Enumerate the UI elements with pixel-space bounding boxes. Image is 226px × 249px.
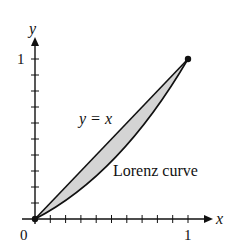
y-axis-label: y: [27, 20, 37, 38]
x-one-label: 1: [184, 227, 192, 243]
equality-line: [35, 59, 188, 219]
lorenz-curve-label: Lorenz curve: [113, 162, 198, 179]
end-point: [185, 56, 191, 62]
origin-label: 0: [20, 227, 28, 243]
x-axis-label: x: [215, 210, 223, 227]
equality-line-label: y = x: [77, 110, 112, 128]
origin-point: [32, 216, 38, 222]
x-axis-arrow-icon: [204, 215, 213, 223]
y-axis-arrow-icon: [31, 37, 39, 46]
y-one-label: 1: [17, 51, 25, 67]
lorenz-curve-diagram: y x 0 1 1 y = x Lorenz curve: [0, 0, 226, 249]
